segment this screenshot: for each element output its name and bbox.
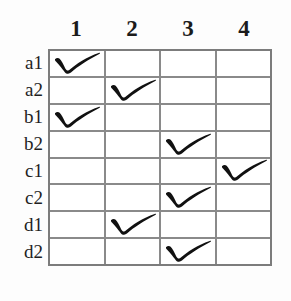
checklist-grid-table bbox=[48, 49, 272, 266]
grid-cell-d2-4[interactable] bbox=[217, 239, 271, 264]
table-row bbox=[50, 159, 270, 186]
column-header-row: 1 2 3 4 bbox=[48, 14, 272, 44]
grid-cell-c1-4[interactable] bbox=[217, 159, 271, 184]
table-row bbox=[50, 185, 270, 212]
grid-cell-d2-1[interactable] bbox=[50, 239, 106, 264]
column-header-2: 2 bbox=[104, 14, 160, 44]
column-header-4: 4 bbox=[216, 14, 272, 44]
row-label-column: a1 a2 b1 b2 c1 c2 d1 d2 bbox=[6, 49, 46, 265]
table-row bbox=[50, 78, 270, 105]
grid-cell-b2-1[interactable] bbox=[50, 132, 106, 157]
grid-cell-d2-2[interactable] bbox=[106, 239, 162, 264]
row-label-c1: c1 bbox=[6, 157, 46, 184]
check-mark-icon bbox=[165, 186, 212, 209]
grid-cell-a2-3[interactable] bbox=[161, 78, 217, 103]
grid-cell-b2-2[interactable] bbox=[106, 132, 162, 157]
grid-cell-b2-4[interactable] bbox=[217, 132, 271, 157]
grid-cell-a2-2[interactable] bbox=[106, 78, 162, 103]
grid-cell-b1-4[interactable] bbox=[217, 105, 271, 130]
check-mark-icon bbox=[54, 106, 101, 129]
grid-cell-a1-2[interactable] bbox=[106, 51, 162, 76]
grid-cell-d2-3[interactable] bbox=[161, 239, 217, 264]
grid-cell-c1-2[interactable] bbox=[106, 159, 162, 184]
table-row bbox=[50, 239, 270, 264]
check-mark-icon bbox=[110, 79, 157, 102]
grid-cell-d1-4[interactable] bbox=[217, 212, 271, 237]
grid-cell-b1-3[interactable] bbox=[161, 105, 217, 130]
grid-cell-a1-1[interactable] bbox=[50, 51, 106, 76]
grid-cell-d1-3[interactable] bbox=[161, 212, 217, 237]
table-row bbox=[50, 51, 270, 78]
grid-cell-c1-1[interactable] bbox=[50, 159, 106, 184]
grid-cell-a2-1[interactable] bbox=[50, 78, 106, 103]
checklist-figure: 1 2 3 4 a1 a2 b1 b2 c1 c2 d1 d2 bbox=[0, 0, 291, 301]
grid-cell-d1-2[interactable] bbox=[106, 212, 162, 237]
check-mark-icon bbox=[165, 133, 212, 156]
table-row bbox=[50, 105, 270, 132]
grid-cell-d1-1[interactable] bbox=[50, 212, 106, 237]
check-mark-icon bbox=[110, 213, 157, 236]
grid-cell-b1-2[interactable] bbox=[106, 105, 162, 130]
grid-cell-a1-3[interactable] bbox=[161, 51, 217, 76]
check-mark-icon bbox=[221, 159, 268, 182]
row-label-b1: b1 bbox=[6, 103, 46, 130]
table-row bbox=[50, 212, 270, 239]
grid-cell-b1-1[interactable] bbox=[50, 105, 106, 130]
row-label-b2: b2 bbox=[6, 130, 46, 157]
row-label-a1: a1 bbox=[6, 49, 46, 76]
grid-cell-b2-3[interactable] bbox=[161, 132, 217, 157]
column-header-1: 1 bbox=[48, 14, 104, 44]
column-header-3: 3 bbox=[160, 14, 216, 44]
row-label-c2: c2 bbox=[6, 184, 46, 211]
table-row bbox=[50, 132, 270, 159]
grid-cell-c1-3[interactable] bbox=[161, 159, 217, 184]
grid-cell-c2-2[interactable] bbox=[106, 185, 162, 210]
grid-cell-a1-4[interactable] bbox=[217, 51, 271, 76]
row-label-d2: d2 bbox=[6, 238, 46, 265]
row-label-d1: d1 bbox=[6, 211, 46, 238]
check-mark-icon bbox=[54, 52, 101, 75]
row-label-a2: a2 bbox=[6, 76, 46, 103]
check-mark-icon bbox=[165, 240, 212, 263]
grid-cell-c2-1[interactable] bbox=[50, 185, 106, 210]
grid-cell-a2-4[interactable] bbox=[217, 78, 271, 103]
grid-cell-c2-3[interactable] bbox=[161, 185, 217, 210]
grid-cell-c2-4[interactable] bbox=[217, 185, 271, 210]
